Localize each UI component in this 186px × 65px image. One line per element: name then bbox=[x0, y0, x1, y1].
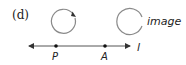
point-p-label: P bbox=[52, 51, 59, 62]
image-label: image bbox=[147, 15, 181, 28]
object-circle bbox=[51, 9, 76, 33]
line-label: l bbox=[137, 41, 140, 54]
point-a bbox=[103, 44, 107, 48]
point-p bbox=[54, 44, 58, 48]
reflection-diagram: (d) image l P A bbox=[0, 0, 186, 65]
point-a-label: A bbox=[100, 51, 108, 62]
panel-label: (d) bbox=[12, 8, 29, 22]
image-circle bbox=[117, 9, 142, 35]
